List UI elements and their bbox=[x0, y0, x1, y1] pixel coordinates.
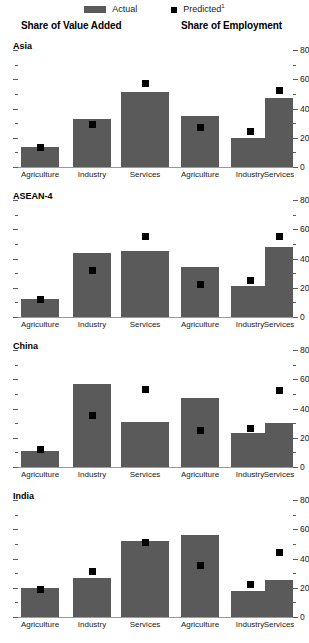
axis-tick-minor bbox=[293, 302, 296, 303]
marker-predicted bbox=[197, 427, 204, 434]
bar-actual bbox=[121, 541, 169, 617]
axis-tick-major bbox=[13, 559, 18, 560]
axis-tick-major bbox=[293, 529, 298, 530]
axis-tick-label: 40 bbox=[300, 104, 309, 114]
marker-predicted bbox=[89, 568, 96, 575]
axis-tick-minor bbox=[15, 65, 18, 66]
bar-actual bbox=[265, 580, 293, 617]
axis-tick-label: 20 bbox=[300, 433, 309, 443]
bar-actual bbox=[73, 384, 111, 467]
axis-tick-major bbox=[13, 109, 18, 110]
legend-footnote-marker: 1 bbox=[221, 3, 224, 9]
axis-tick-major bbox=[293, 379, 298, 380]
axis-tick-minor bbox=[293, 452, 296, 453]
axis-tick-major bbox=[13, 317, 18, 318]
axis-tick-major bbox=[293, 350, 298, 351]
bar-actual bbox=[121, 251, 169, 317]
axis-tick-major bbox=[293, 138, 298, 139]
axis-tick-minor bbox=[293, 365, 296, 366]
axis-tick-major bbox=[13, 167, 18, 168]
marker-predicted bbox=[247, 425, 254, 432]
axis-tick-minor bbox=[293, 215, 296, 216]
axis-tick-minor bbox=[293, 123, 296, 124]
axis-tick-major bbox=[293, 79, 298, 80]
axis-tick-minor bbox=[15, 365, 18, 366]
category-label: Services bbox=[130, 170, 161, 179]
marker-predicted bbox=[37, 446, 44, 453]
bar-actual bbox=[181, 535, 219, 617]
axis-tick-major bbox=[293, 559, 298, 560]
axis-tick-label: 40 bbox=[300, 254, 309, 264]
axis-tick-major bbox=[293, 109, 298, 110]
axis-tick-major bbox=[293, 617, 298, 618]
bar-actual bbox=[231, 591, 269, 617]
category-labels: AgricultureIndustryServicesAgricultureIn… bbox=[0, 170, 309, 184]
marker-predicted bbox=[247, 581, 254, 588]
axis-tick-minor bbox=[15, 394, 18, 395]
legend-label-actual: Actual bbox=[112, 5, 137, 14]
axis-tick-label: 40 bbox=[300, 404, 309, 414]
category-label: Industry bbox=[236, 320, 264, 329]
axis-tick-major bbox=[13, 409, 18, 410]
axis-tick-major bbox=[13, 588, 18, 589]
column-title-value-added: Share of Value Added bbox=[21, 20, 121, 31]
category-label: Industry bbox=[236, 620, 264, 629]
bar-actual bbox=[73, 253, 111, 317]
axis-tick-major bbox=[293, 50, 298, 51]
marker-predicted bbox=[37, 586, 44, 593]
marker-predicted bbox=[197, 124, 204, 131]
category-label: Industry bbox=[78, 620, 106, 629]
axis-tick-label: 60 bbox=[300, 524, 309, 534]
column-title-employment: Share of Employment bbox=[181, 20, 282, 31]
marker-predicted bbox=[276, 233, 283, 240]
axis-tick-minor bbox=[15, 244, 18, 245]
axis-tick-major bbox=[293, 467, 298, 468]
axis-tick-label: 80 bbox=[300, 45, 309, 55]
category-label: Services bbox=[264, 620, 295, 629]
category-label: Agriculture bbox=[21, 320, 59, 329]
bar-actual bbox=[265, 423, 293, 467]
marker-predicted bbox=[197, 562, 204, 569]
chart-panel-asia: Asia020406080AgricultureIndustryServices… bbox=[0, 39, 309, 189]
axis-tick-major bbox=[293, 317, 298, 318]
axis-tick-minor bbox=[15, 544, 18, 545]
chart-legend: Actual Predicted1 bbox=[0, 0, 309, 17]
chart-panels: Asia020406080AgricultureIndustryServices… bbox=[0, 39, 309, 642]
axis-tick-label: 20 bbox=[300, 583, 309, 593]
category-label: Agriculture bbox=[21, 170, 59, 179]
axis-tick-label: 80 bbox=[300, 195, 309, 205]
legend-item-actual: Actual bbox=[84, 5, 137, 14]
axis-tick-minor bbox=[293, 573, 296, 574]
axis-tick-major bbox=[293, 167, 298, 168]
axis-tick-minor bbox=[293, 244, 296, 245]
axis-baseline bbox=[18, 317, 293, 318]
axis-tick-label: 60 bbox=[300, 374, 309, 384]
square-marker-icon bbox=[171, 7, 177, 13]
axis-tick-major bbox=[293, 438, 298, 439]
axis-tick-minor bbox=[15, 452, 18, 453]
axis-tick-label: 20 bbox=[300, 283, 309, 293]
axis-tick-minor bbox=[293, 273, 296, 274]
axis-tick-label: 40 bbox=[300, 554, 309, 564]
category-labels: AgricultureIndustryServicesAgricultureIn… bbox=[0, 320, 309, 334]
bar-actual bbox=[121, 422, 169, 467]
marker-predicted bbox=[37, 296, 44, 303]
marker-predicted bbox=[247, 277, 254, 284]
legend-label-predicted: Predicted1 bbox=[183, 5, 224, 14]
plot-area: 020406080AgricultureIndustryServicesAgri… bbox=[0, 489, 309, 624]
bar-actual bbox=[181, 267, 219, 317]
axis-tick-minor bbox=[293, 423, 296, 424]
category-label: Agriculture bbox=[181, 320, 219, 329]
axis-tick-minor bbox=[15, 423, 18, 424]
marker-predicted bbox=[89, 412, 96, 419]
axis-tick-minor bbox=[293, 515, 296, 516]
legend-label-predicted-text: Predicted bbox=[183, 4, 221, 14]
axis-tick-major bbox=[293, 200, 298, 201]
bar-actual bbox=[73, 578, 111, 617]
axis-tick-label: 60 bbox=[300, 224, 309, 234]
marker-predicted bbox=[142, 233, 149, 240]
category-label: Industry bbox=[78, 470, 106, 479]
axis-tick-major bbox=[13, 438, 18, 439]
axis-tick-minor bbox=[293, 394, 296, 395]
marker-predicted bbox=[37, 144, 44, 151]
